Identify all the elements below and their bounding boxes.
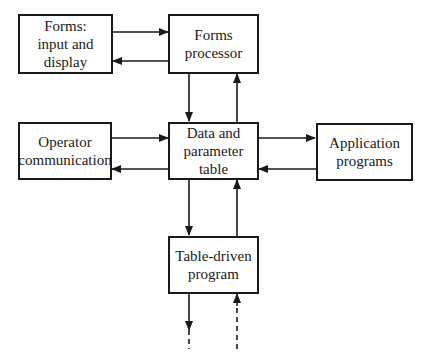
box-operator-communication: Operator communication	[18, 122, 112, 180]
box-label: Forms processor	[185, 26, 242, 62]
box-label: Table-driven program	[175, 247, 251, 283]
box-forms-input-display: Forms: input and display	[18, 14, 113, 74]
box-table-driven-program: Table-driven program	[168, 236, 259, 294]
box-label: Operator communication	[18, 133, 111, 169]
box-label: Forms: input and display	[37, 17, 93, 71]
box-application-programs: Application programs	[316, 123, 413, 181]
box-data-parameter-table: Data and parameter table	[168, 122, 259, 180]
box-label: Data and parameter table	[184, 124, 244, 178]
box-forms-processor: Forms processor	[168, 14, 259, 74]
box-label: Application programs	[329, 134, 400, 170]
